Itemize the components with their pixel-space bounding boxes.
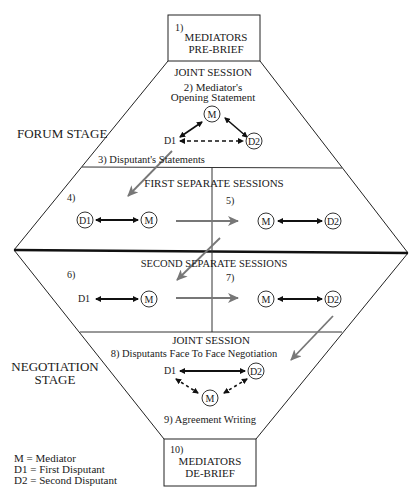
node-mediator: M [204, 106, 221, 123]
step-9-label: 9) Agreement Writing [164, 414, 256, 426]
second-node-d2: D2 [325, 291, 342, 308]
pre-brief-label-2: PRE-BRIEF [188, 43, 243, 55]
node-d2: D2 [246, 133, 263, 150]
pre-brief-label-1: MEDIATORS [185, 31, 248, 43]
second-node-d1: D1 [78, 293, 90, 305]
de-brief-label-1: MEDIATORS [179, 455, 242, 467]
step-6-label: 6) [67, 269, 75, 281]
legend: M = Mediator D1 = First Disputant D2 = S… [14, 453, 117, 486]
first-node-d2: D2 [325, 213, 342, 230]
negotiation-stage-label-2: STAGE [35, 373, 76, 386]
first-node-m-left: M [141, 212, 158, 229]
first-separate-title: FIRST SEPARATE SESSIONS [144, 177, 283, 189]
de-brief-label-2: DE-BRIEF [185, 467, 235, 479]
step-3-label: 3) Disputant's Statements [98, 154, 205, 166]
legend-item-d2: D2 = Second Disputant [14, 475, 117, 486]
step-8-label: 8) Disputants Face To Face Negotiation [111, 348, 278, 360]
node-d1: D1 [164, 135, 176, 147]
joint2-node-d2: D2 [248, 363, 265, 380]
first-node-d1: D1 [77, 212, 94, 229]
second-separate-title: SECOND SEPARATE SESSIONS [141, 258, 288, 270]
step-7-label: 7) [226, 272, 234, 284]
step-5-label: 5) [226, 195, 234, 207]
step-2-line-2: Opening Statement [171, 91, 256, 103]
second-node-m-left: M [141, 291, 158, 308]
forum-stage-label: FORUM STAGE [17, 127, 107, 140]
stage-divider [14, 250, 408, 253]
joint2-node-m: M [202, 390, 219, 407]
diamond-outline-right [256, 61, 408, 439]
joint-session-2-title: JOINT SESSION [172, 334, 250, 346]
first-node-m-right: M [258, 213, 275, 230]
pre-brief-number: 1) [175, 22, 183, 34]
step-4-label: 4) [67, 192, 75, 204]
flow-arrow-5 [291, 316, 333, 360]
second-node-m-right: M [258, 291, 275, 308]
joint-session-1-title: JOINT SESSION [174, 66, 252, 78]
joint2-node-d1: D1 [164, 365, 176, 377]
